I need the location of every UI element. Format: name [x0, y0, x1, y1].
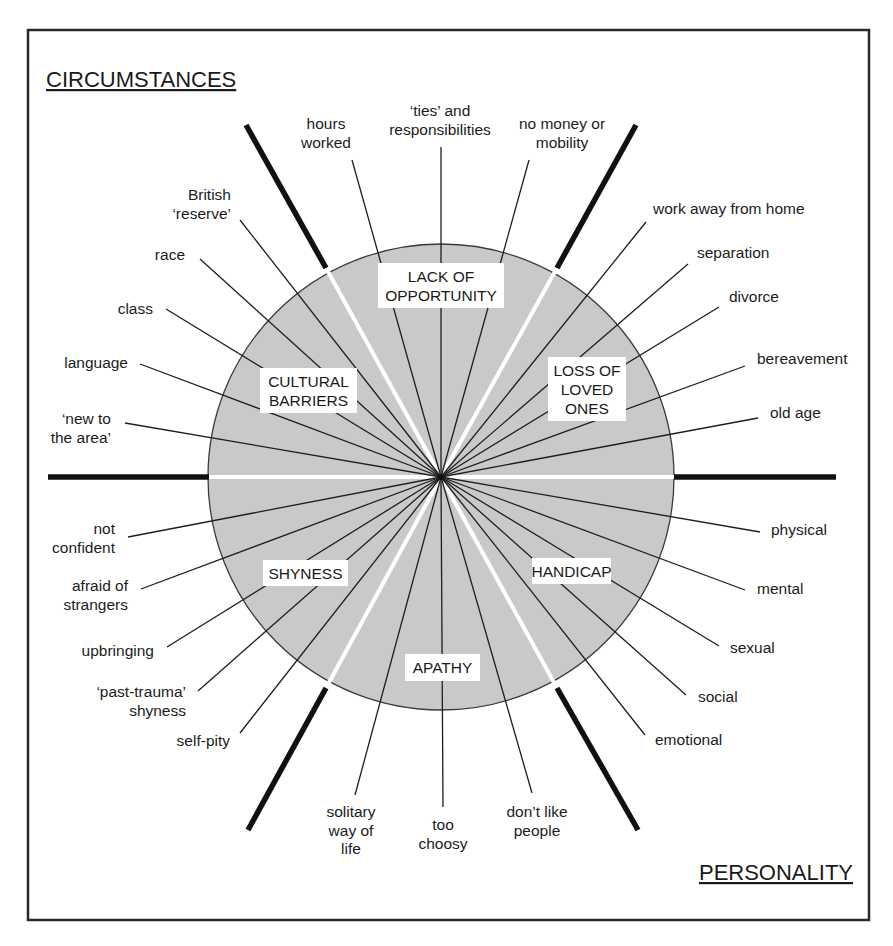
- factor-label-line: don’t like: [506, 803, 567, 820]
- factor-label-line: mental: [757, 580, 804, 597]
- divider-outer-5: [557, 688, 638, 830]
- factor-label-shyness: notconfident: [52, 520, 116, 556]
- factor-label-handicap: social: [698, 688, 738, 705]
- factor-label-handicap: emotional: [655, 731, 722, 748]
- factor-label-lack-of-opportunity: hoursworked: [300, 115, 351, 151]
- factor-label-cultural-barriers: class: [118, 300, 154, 317]
- factor-label-line: choosy: [418, 835, 467, 852]
- section-label-line: HANDICAP: [531, 563, 611, 580]
- factor-label-line: responsibilities: [389, 121, 491, 138]
- factor-label-line: separation: [697, 244, 769, 261]
- factor-label-apathy: don’t likepeople: [506, 803, 567, 839]
- factor-label-cultural-barriers: language: [64, 354, 128, 371]
- factor-label-line: emotional: [655, 731, 722, 748]
- factor-label-shyness: upbringing: [82, 642, 154, 659]
- factor-label-line: hours: [307, 115, 346, 132]
- section-loss-of-loved-ones: LOSS OFLOVEDONES: [548, 357, 626, 421]
- section-label-text: APATHY: [413, 659, 473, 676]
- section-label-line: APATHY: [413, 659, 473, 676]
- factor-label-line: shyness: [129, 702, 186, 719]
- factor-label-line: divorce: [729, 288, 779, 305]
- factor-label-cultural-barriers: race: [155, 246, 185, 263]
- factor-label-line: ‘past-trauma’: [96, 683, 186, 700]
- factor-label-line: afraid of: [72, 577, 129, 594]
- factor-label-line: physical: [771, 521, 827, 538]
- factor-label-shyness: ‘past-trauma’shyness: [96, 683, 186, 719]
- factor-label-line: ‘ties’ and: [410, 102, 471, 119]
- factor-label-line: self-pity: [177, 732, 231, 749]
- section-label-line: LACK OF: [408, 268, 474, 285]
- heading-circumstances-text: CIRCUMSTANCES: [46, 67, 236, 92]
- center-hub: [438, 474, 444, 480]
- factor-label-loss-of-loved-ones: divorce: [729, 288, 779, 305]
- section-shyness: SHYNESS: [263, 560, 348, 586]
- section-label-line: BARRIERS: [269, 392, 348, 409]
- factor-label-line: class: [118, 300, 154, 317]
- factor-label-loss-of-loved-ones: old age: [770, 404, 821, 421]
- factor-label-line: sexual: [730, 639, 775, 656]
- factor-label-line: work away from home: [652, 200, 805, 217]
- factor-label-loss-of-loved-ones: work away from home: [652, 200, 805, 217]
- factor-label-cultural-barriers: ‘new tothe area’: [51, 410, 111, 446]
- factor-label-lack-of-opportunity: no money ormobility: [519, 115, 605, 151]
- factor-label-line: upbringing: [82, 642, 154, 659]
- factor-label-line: too: [432, 816, 454, 833]
- section-cultural-barriers: CULTURALBARRIERS: [260, 368, 357, 413]
- factor-label-line: ‘reserve’: [172, 205, 231, 222]
- factor-label-line: social: [698, 688, 738, 705]
- heading-personality: PERSONALITY: [699, 860, 853, 885]
- section-lack-of-opportunity: LACK OFOPPORTUNITY: [378, 263, 504, 308]
- factor-label-line: life: [341, 840, 361, 857]
- section-label-line: SHYNESS: [268, 565, 342, 582]
- loneliness-causes-diagram: CIRCUMSTANCES PERSONALITY hoursworked‘ti…: [0, 0, 893, 946]
- factor-label-line: confident: [52, 539, 116, 556]
- factor-label-line: ‘new to: [62, 410, 111, 427]
- factor-label-line: bereavement: [757, 350, 848, 367]
- divider-outer-4: [248, 688, 326, 830]
- heading-personality-text: PERSONALITY: [699, 860, 853, 885]
- section-label-line: LOVED: [561, 381, 614, 398]
- heading-circumstances: CIRCUMSTANCES: [46, 67, 236, 92]
- factor-label-line: solitary: [326, 803, 375, 820]
- factor-label-shyness: self-pity: [177, 732, 231, 749]
- factor-label-handicap: mental: [757, 580, 804, 597]
- section-apathy: APATHY: [405, 654, 480, 681]
- factor-label-line: worked: [300, 134, 351, 151]
- factor-label-line: old age: [770, 404, 821, 421]
- factor-label-line: no money or: [519, 115, 605, 132]
- factor-label-handicap: physical: [771, 521, 827, 538]
- factor-label-line: not: [93, 520, 115, 537]
- factor-label-shyness: afraid ofstrangers: [63, 577, 128, 613]
- factor-label-line: people: [514, 822, 561, 839]
- factor-label-line: race: [155, 246, 185, 263]
- factor-label-line: strangers: [63, 596, 128, 613]
- factor-label-cultural-barriers: British‘reserve’: [172, 186, 231, 222]
- factor-label-line: British: [188, 186, 231, 203]
- section-label-line: LOSS OF: [553, 362, 620, 379]
- factor-label-line: language: [64, 354, 128, 371]
- factor-label-handicap: sexual: [730, 639, 775, 656]
- factor-label-loss-of-loved-ones: separation: [697, 244, 769, 261]
- factor-label-apathy: solitaryway oflife: [326, 803, 375, 857]
- factor-label-apathy: toochoosy: [418, 816, 467, 852]
- factor-label-line: the area’: [51, 429, 111, 446]
- section-label-line: ONES: [565, 400, 609, 417]
- section-label-line: OPPORTUNITY: [385, 287, 497, 304]
- section-label-text: SHYNESS: [268, 565, 342, 582]
- section-label-line: CULTURAL: [268, 373, 349, 390]
- section-label-text: HANDICAP: [531, 563, 611, 580]
- factor-label-line: way of: [328, 822, 374, 839]
- factor-label-lack-of-opportunity: ‘ties’ andresponsibilities: [389, 102, 491, 138]
- factor-label-line: mobility: [536, 134, 589, 151]
- section-handicap: HANDICAP: [531, 558, 611, 584]
- factor-label-loss-of-loved-ones: bereavement: [757, 350, 848, 367]
